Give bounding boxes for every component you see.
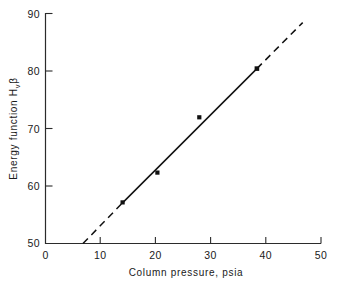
axis-spines: [46, 13, 322, 244]
x-tick-label-20: 20: [149, 249, 161, 261]
svg-text:Energy function Hvβ: Energy function Hvβ: [8, 77, 22, 179]
x-axis-title: Column pressure, psia: [129, 267, 244, 278]
data-point: [255, 66, 260, 71]
x-tick-label-0: 0: [42, 249, 48, 261]
x-axis-ticks: [100, 237, 321, 244]
y-tick-label-90: 90: [28, 8, 40, 20]
x-tick-label-50: 50: [315, 249, 327, 261]
y-tick-label-80: 80: [28, 65, 40, 77]
fit-line-solid: [123, 69, 257, 203]
data-point: [197, 115, 201, 119]
y-tick-label-70: 70: [28, 123, 40, 135]
fit-line-dashed-upper: [257, 23, 303, 69]
y-axis-title: Energy function Hvβ: [8, 77, 22, 179]
chart-figure: 50 60 70 80 90 0 10 20 30 40 50 Column p…: [0, 0, 337, 282]
fit-line-dashed-lower: [83, 203, 123, 244]
y-axis-ticks: [46, 14, 53, 187]
x-tick-label-40: 40: [260, 249, 272, 261]
y-axis-title-main: Energy function H: [8, 88, 19, 179]
chart-canvas: 50 60 70 80 90 0 10 20 30 40 50 Column p…: [0, 0, 337, 282]
x-tick-label-30: 30: [204, 249, 216, 261]
x-tick-label-10: 10: [94, 249, 106, 261]
y-tick-label-50: 50: [28, 237, 40, 249]
y-tick-label-60: 60: [28, 180, 40, 192]
y-axis-title-beta: β: [8, 77, 19, 83]
data-point: [155, 171, 159, 175]
data-point: [121, 200, 125, 204]
